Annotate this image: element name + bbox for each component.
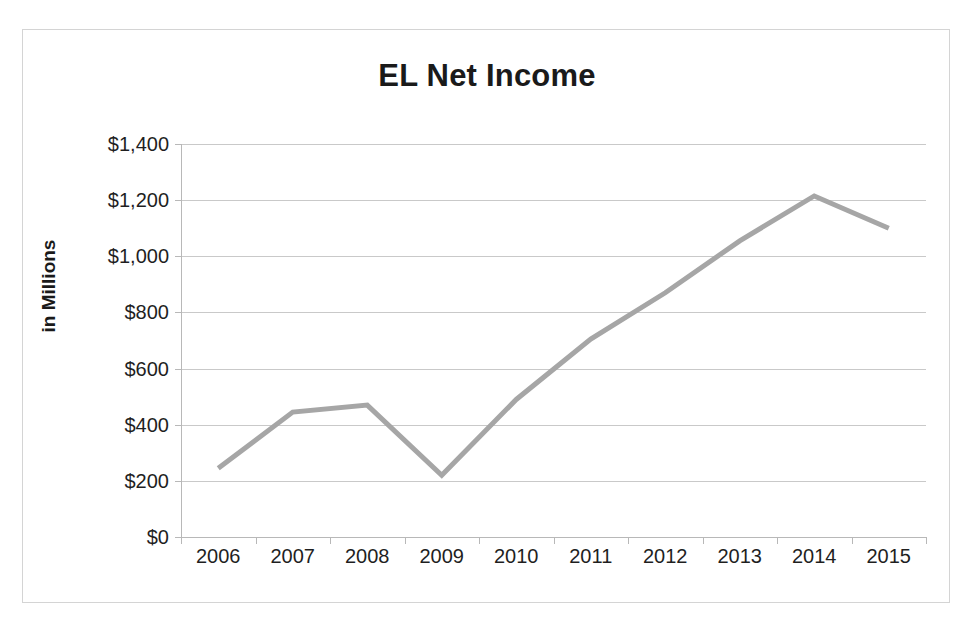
chart-title: EL Net Income xyxy=(23,58,951,94)
net-income-line-series xyxy=(181,144,926,537)
x-axis-tick-label: 2014 xyxy=(792,545,837,568)
x-axis-tick-mark xyxy=(405,537,406,544)
x-axis-tick-label: 2013 xyxy=(718,545,763,568)
y-axis-tick-label: $400 xyxy=(125,413,170,436)
x-axis-tick-mark xyxy=(628,537,629,544)
net-income-polyline xyxy=(218,196,889,475)
x-axis-tick-label: 2011 xyxy=(569,545,612,568)
x-axis-tick-label: 2007 xyxy=(271,545,316,568)
chart-container: EL Net Income in Millions $0$200$400$600… xyxy=(22,29,950,603)
x-axis-tick-mark xyxy=(256,537,257,544)
x-axis-tick-mark xyxy=(852,537,853,544)
x-axis-tick-mark xyxy=(926,537,927,544)
y-axis-tick-label: $600 xyxy=(125,357,170,380)
x-axis-tick-mark xyxy=(554,537,555,544)
y-axis-tick-label: $800 xyxy=(125,301,170,324)
x-axis-tick-label: 2008 xyxy=(345,545,390,568)
plot-area: $0$200$400$600$800$1,000$1,200$1,400 200… xyxy=(181,144,926,537)
x-axis-tick-mark xyxy=(330,537,331,544)
x-axis-tick-label: 2015 xyxy=(867,545,912,568)
x-axis-tick-label: 2012 xyxy=(643,545,688,568)
y-axis-tick-label: $1,400 xyxy=(108,133,169,156)
x-axis-tick-label: 2006 xyxy=(196,545,241,568)
y-axis-tick-label: $200 xyxy=(125,469,170,492)
y-axis-tick-label: $0 xyxy=(147,526,169,549)
y-axis-tick-label: $1,200 xyxy=(108,189,169,212)
x-axis-tick-label: 2010 xyxy=(494,545,539,568)
x-axis-tick-mark xyxy=(479,537,480,544)
x-axis-tick-mark xyxy=(777,537,778,544)
x-axis-tick-mark xyxy=(181,537,182,544)
y-axis-title: in Millions xyxy=(38,216,60,356)
x-axis-tick-label: 2009 xyxy=(420,545,465,568)
x-axis-tick-mark xyxy=(703,537,704,544)
y-axis-tick-label: $1,000 xyxy=(108,245,169,268)
